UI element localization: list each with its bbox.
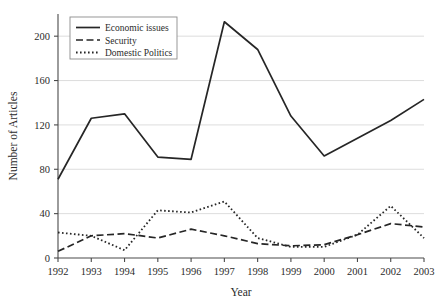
x-tick-label-1998: 1998 (247, 266, 268, 277)
y-tick-label-160: 160 (34, 75, 50, 86)
y-tick-label-200: 200 (34, 31, 50, 42)
y-tick-label-120: 120 (34, 120, 50, 131)
x-tick-label-2001: 2001 (347, 266, 368, 277)
x-tick-label-1995: 1995 (147, 266, 168, 277)
series-line-security (58, 224, 424, 252)
legend-label-security: Security (105, 36, 137, 46)
x-tick-label-1997: 1997 (214, 266, 235, 277)
chart-container: 0408012016020019921993199419951996199719… (0, 0, 435, 304)
y-tick-label-40: 40 (40, 208, 51, 219)
x-tick-label-2003: 2003 (414, 266, 435, 277)
x-axis-title: Year (230, 286, 251, 298)
x-tick-label-1999: 1999 (280, 266, 301, 277)
legend-label-domestic-politics: Domestic Politics (105, 48, 173, 58)
y-tick-label-80: 80 (40, 164, 51, 175)
y-axis-title: Number of Articles (7, 91, 19, 180)
series-line-domestic-politics (58, 201, 424, 250)
y-tick-label-0: 0 (45, 253, 50, 264)
line-chart: 0408012016020019921993199419951996199719… (0, 0, 435, 304)
x-tick-label-2000: 2000 (314, 266, 335, 277)
x-tick-label-2002: 2002 (380, 266, 401, 277)
legend-label-economic-issues: Economic issues (105, 23, 169, 33)
x-tick-label-1996: 1996 (181, 266, 202, 277)
x-tick-label-1992: 1992 (48, 266, 69, 277)
x-tick-label-1993: 1993 (81, 266, 102, 277)
x-tick-label-1994: 1994 (114, 266, 136, 277)
